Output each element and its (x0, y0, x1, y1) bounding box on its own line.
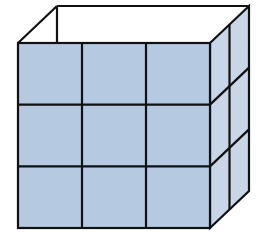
cube-diagram (0, 0, 257, 248)
top-left-depth-edge (18, 6, 57, 43)
front-face (18, 43, 210, 228)
